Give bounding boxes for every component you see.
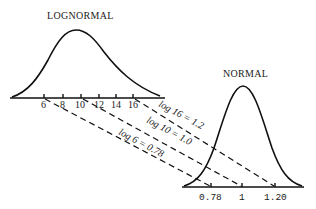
normal-curve bbox=[184, 86, 302, 186]
normal-tick-label: 0.78 bbox=[199, 192, 222, 203]
mapping-line-10 bbox=[83, 99, 241, 186]
mapping-label-6: log 6 = 0.78 bbox=[117, 126, 166, 159]
mapping-line-16 bbox=[135, 99, 274, 186]
lognormal-tick-label: 8 bbox=[60, 99, 65, 110]
lognormal-tick-label: 16 bbox=[128, 99, 138, 110]
lognormal-tick-label: 14 bbox=[111, 99, 121, 110]
lognormal-tick-label: 12 bbox=[94, 99, 104, 110]
lognormal-tick-label: 6 bbox=[41, 99, 46, 110]
lognormal-curve bbox=[12, 30, 160, 97]
normal-tick-label: 1.20 bbox=[264, 192, 287, 203]
lognormal-tick-label: 10 bbox=[75, 99, 85, 110]
normal-title: NORMAL bbox=[223, 68, 268, 79]
lognormal-to-normal-diagram: LOGNORMAL 6 8 10 12 14 16 NORMAL 0.78 1 … bbox=[0, 0, 316, 209]
lognormal-title: LOGNORMAL bbox=[47, 10, 114, 21]
normal-tick-label: 1 bbox=[239, 192, 245, 203]
